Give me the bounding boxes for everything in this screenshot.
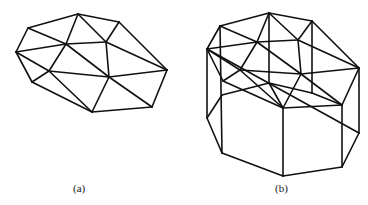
figure-b-edge-H-E (240, 42, 257, 70)
figure-a-edge-G-L (152, 70, 167, 107)
figure-a-edge-I-G (109, 70, 167, 77)
figure-a-edge-J-H (32, 71, 49, 82)
figure-b-edge-G-L (342, 68, 359, 105)
figure-b-edge-F-G (298, 40, 359, 68)
figure-b-edge-F-I (298, 40, 301, 74)
figure-b-edge-Am-Bm (269, 83, 312, 93)
figure-a-label: (a) (73, 182, 85, 194)
figure-b-edge-J-H (223, 70, 240, 81)
figure-b-edge-B-G (312, 21, 359, 68)
figure-b-edge-B-F (298, 21, 312, 40)
figure-a-edge-E-F (66, 42, 106, 44)
figure-b-edge-C-E (220, 26, 257, 42)
figure-b-edge-Dp-Cm (207, 95, 222, 118)
figure-a-edge-C-A (28, 14, 78, 28)
figure-b-edge-Bm-L (312, 93, 342, 105)
figure-a-edge-L-K (92, 107, 152, 112)
figure-b-extruded-prism (207, 13, 359, 176)
figure-b-edge-I-L (301, 74, 342, 105)
figure-a-edge-F-G (106, 42, 167, 70)
figure-a-edge-A-E (66, 14, 78, 44)
figure-b-edge-D-E (207, 42, 257, 49)
figure-a-tin-mesh (16, 14, 167, 112)
figure-a-edge-I-K (92, 77, 109, 112)
figure-b-edge-Lp-Gp (342, 133, 359, 167)
figure-b-edge-I-K (283, 74, 301, 108)
figure-b-edge-Dp-Jp (207, 118, 222, 153)
diagram-canvas (0, 0, 368, 205)
figure-a-edge-D-E (16, 44, 66, 52)
figure-a-edge-H-E (49, 44, 66, 71)
figure-b-label: (b) (275, 182, 288, 194)
figure-b-edge-I-G (301, 68, 359, 74)
figure-a-edge-K-J (32, 82, 92, 112)
figure-b-edge-E-I (257, 42, 301, 74)
figure-b-edge-Jp-Kp (222, 153, 283, 176)
figure-b-edge-A-E (257, 13, 269, 42)
figure-b-edge-Kp-Lp (283, 167, 342, 176)
figure-b-edge-C-A (220, 13, 269, 26)
figure-a-edge-H-I (49, 71, 109, 77)
figure-a-edge-B-F (106, 22, 119, 42)
figure-b-edge-C-Cb (220, 26, 222, 153)
figure-a-edge-B-G (119, 22, 167, 70)
figure-b-edge-E-F (257, 40, 298, 42)
figure-a-edge-I-L (109, 77, 152, 107)
figure-a-edge-H-K (49, 71, 92, 112)
figure-b-edge-K-J (223, 81, 283, 108)
figure-a-edge-C-E (28, 28, 66, 44)
figure-a-edge-F-I (106, 42, 109, 77)
figure-a-edge-D-C (16, 28, 28, 52)
figure-b-edge-D-C (207, 26, 220, 49)
figure-a-edge-E-I (66, 44, 109, 77)
